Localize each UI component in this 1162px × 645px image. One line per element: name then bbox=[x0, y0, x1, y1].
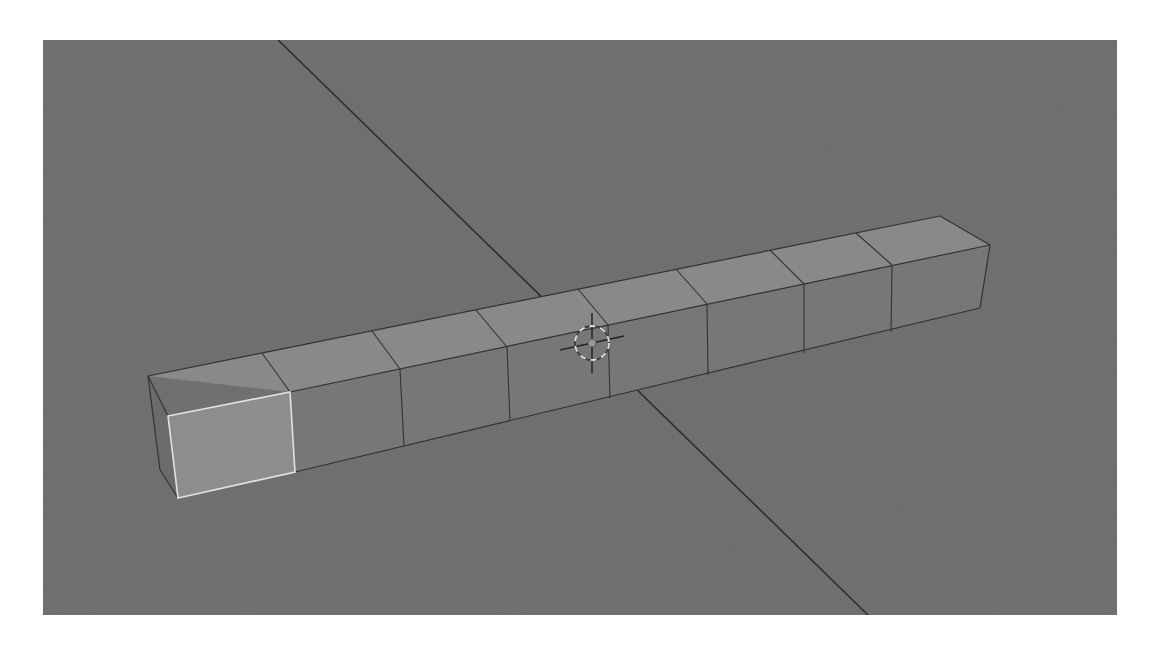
noise-overlay bbox=[43, 40, 1117, 615]
3d-viewport[interactable] bbox=[43, 40, 1117, 615]
viewport-canvas[interactable] bbox=[43, 40, 1117, 615]
